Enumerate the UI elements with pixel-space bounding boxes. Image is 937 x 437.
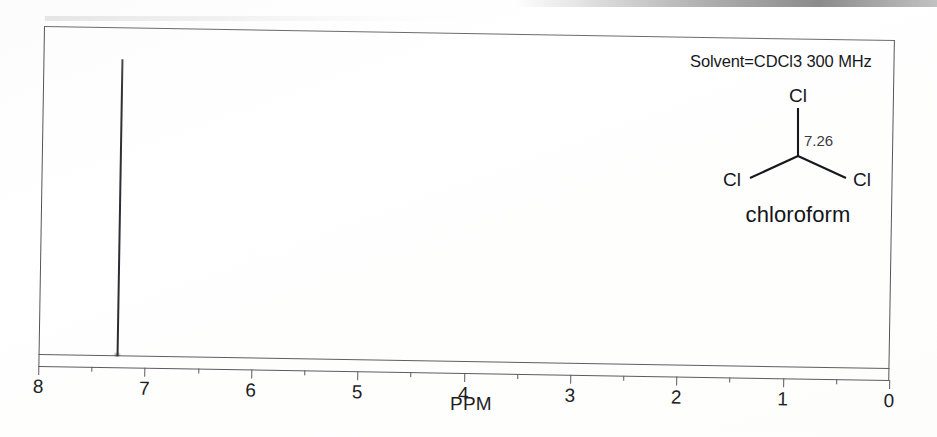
x-tick-label: 6 — [245, 380, 256, 399]
chemical-shift-label: 7.26 — [804, 132, 833, 149]
x-tick-minor — [623, 376, 624, 381]
scan-artifact-top — [515, 0, 937, 7]
x-tick-label: 3 — [564, 386, 575, 405]
x-tick-label: 7 — [139, 379, 150, 398]
molecule-caption: chloroform — [746, 202, 851, 228]
x-tick-minor — [836, 379, 837, 384]
bond-c-cl-right — [798, 156, 846, 178]
atom-label-cl-right: Cl — [853, 170, 871, 189]
x-axis-title: PPM — [450, 393, 492, 415]
bond-c-cl-left — [750, 156, 798, 178]
x-axis-ticks: 876543210 — [44, 26, 895, 40]
x-tick-label: 2 — [671, 387, 682, 406]
x-tick-major — [783, 378, 784, 387]
x-tick-label: 5 — [352, 382, 363, 401]
x-tick-major — [145, 368, 146, 377]
atom-label-cl-left: Cl — [723, 170, 741, 189]
x-tick-label: 0 — [883, 391, 894, 410]
atom-label-cl-top: Cl — [789, 86, 807, 105]
x-tick-minor — [411, 372, 412, 377]
x-tick-minor — [198, 369, 199, 374]
scan-artifact-left — [45, 16, 490, 21]
x-tick-major — [570, 375, 571, 384]
x-tick-major — [251, 369, 252, 378]
molecule-structure-chloroform: Cl Cl Cl 7.26 chloroform — [714, 86, 882, 198]
x-tick-major — [357, 371, 358, 380]
x-tick-major — [464, 373, 465, 382]
nmr-spectrum-figure: 876543210 PPM Solvent=CDCl3 300 MHz Cl C… — [0, 0, 937, 437]
x-tick-major — [676, 377, 677, 386]
x-tick-minor — [91, 367, 92, 372]
x-tick-minor — [517, 374, 518, 379]
x-tick-label: 8 — [33, 377, 44, 396]
x-tick-minor — [730, 377, 731, 382]
x-tick-major — [38, 366, 39, 375]
solvent-annotation: Solvent=CDCl3 300 MHz — [690, 52, 872, 71]
x-tick-minor — [304, 370, 305, 375]
x-tick-label: 1 — [777, 389, 788, 408]
x-tick-major — [889, 380, 890, 389]
